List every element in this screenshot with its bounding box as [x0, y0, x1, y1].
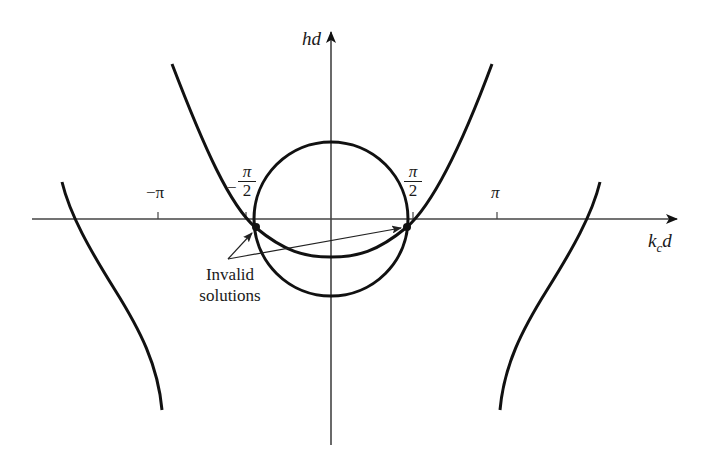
- annotation-line-1: Invalid: [190, 264, 270, 285]
- center-branch-curve: [172, 64, 492, 257]
- invalid-point-left: [252, 223, 260, 231]
- left-branch-curve: [62, 182, 162, 410]
- invalid-point-right: [403, 223, 411, 231]
- fraction-denominator: 2: [238, 182, 256, 200]
- invalid-solutions-annotation: Invalid solutions: [190, 264, 270, 306]
- tick-label-neg-half-pi: π 2: [238, 163, 256, 200]
- tick-label-pi: π: [491, 183, 500, 203]
- annotation-line-2: solutions: [190, 285, 270, 306]
- tick-label-neg-pi: −π: [146, 183, 164, 203]
- fraction-numerator: π: [404, 163, 422, 182]
- tick-label-neg-half-pi-sign: −: [227, 178, 237, 198]
- fraction-denominator: 2: [404, 182, 422, 200]
- x-axis-label: kcd: [648, 230, 672, 256]
- diagram-canvas: [0, 0, 711, 460]
- fraction-numerator: π: [238, 163, 256, 182]
- right-branch-curve: [500, 182, 600, 410]
- x-axis-label-tail: d: [662, 230, 672, 251]
- y-axis-label: hd: [302, 28, 321, 50]
- tick-label-half-pi: π 2: [404, 163, 422, 200]
